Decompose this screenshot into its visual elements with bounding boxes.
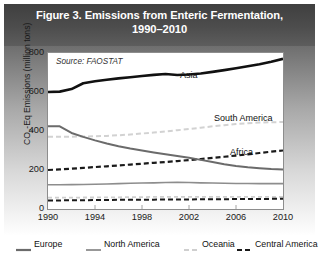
legend-label-central-america: Central America xyxy=(255,239,318,249)
series-line-south-america xyxy=(48,122,283,137)
legend-item-central-america: Central America xyxy=(237,237,318,251)
series-line-north-america xyxy=(48,182,283,185)
x-axis-tick-labels: 199019941998200220062010 xyxy=(47,212,284,226)
legend-label-oceania: Oceania xyxy=(202,239,235,249)
y-tick-label: 600 xyxy=(18,86,44,96)
chart-legend: Europe North America Oceania Central Ame… xyxy=(8,237,311,253)
x-tick-label: 2006 xyxy=(216,212,256,222)
legend-swatch-north-america xyxy=(86,240,101,249)
legend-label-north-america: North America xyxy=(104,239,160,249)
series-label-africa: Africa xyxy=(230,147,253,157)
x-tick-label: 2010 xyxy=(263,212,303,222)
legend-item-europe: Europe xyxy=(16,237,62,251)
y-axis-tick-labels: 8006004002000 xyxy=(14,52,44,210)
figure-title-line2: 1990–2010 xyxy=(10,22,309,36)
x-tick-label: 1994 xyxy=(75,212,115,222)
legend-label-europe: Europe xyxy=(34,239,62,249)
legend-swatch-central-america xyxy=(237,240,252,249)
series-line-oceania xyxy=(48,197,283,198)
y-tick-label: 800 xyxy=(18,47,44,57)
y-tick-label: 200 xyxy=(18,164,44,174)
legend-item-north-america: North America xyxy=(86,237,160,251)
x-tick-label: 1998 xyxy=(122,212,162,222)
figure-card: Figure 3. Emissions from Enteric Ferment… xyxy=(0,0,319,264)
plot-area xyxy=(47,52,284,210)
series-label-asia: Asia xyxy=(180,70,198,80)
figure-title-line1: Figure 3. Emissions from Enteric Ferment… xyxy=(36,9,283,21)
figure-title: Figure 3. Emissions from Enteric Ferment… xyxy=(10,8,309,36)
series-label-south-america: South America xyxy=(214,113,273,123)
legend-item-oceania: Oceania xyxy=(184,237,235,251)
legend-swatch-oceania xyxy=(184,240,199,249)
legend-swatch-europe xyxy=(16,240,31,249)
series-line-central-america xyxy=(48,199,283,201)
x-tick-label: 2002 xyxy=(169,212,209,222)
plot-svg xyxy=(48,53,283,209)
y-tick-label: 400 xyxy=(18,125,44,135)
x-tick-label: 1990 xyxy=(28,212,68,222)
source-note: Source: FAOSTAT xyxy=(56,57,122,66)
